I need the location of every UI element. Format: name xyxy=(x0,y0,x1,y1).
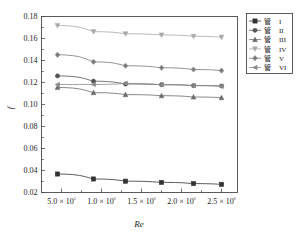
legend-label-roman: V xyxy=(279,55,284,63)
data-point-marker xyxy=(191,181,195,185)
legend-label-cn: 管 xyxy=(264,17,271,26)
data-point-marker xyxy=(159,180,163,184)
data-point-marker xyxy=(123,179,127,183)
legend-label-cn: 管 xyxy=(264,26,271,35)
y-tick-label: 0.06 xyxy=(24,144,38,153)
x-tick-label: 2.5 × 10⁶ xyxy=(207,196,236,206)
figure-container: 0.020.040.060.080.100.120.140.160.18 5.0… xyxy=(0,0,302,235)
data-point-marker xyxy=(91,177,95,181)
legend-label-cn: 管 xyxy=(264,63,271,72)
chart-legend: 管I管II管III管IV管V管VI xyxy=(247,14,293,74)
data-point-marker xyxy=(253,28,257,32)
x-tick-label: 1.0 × 10⁶ xyxy=(87,196,116,206)
data-point-marker xyxy=(253,19,257,23)
legend-label-cn: 管 xyxy=(264,54,271,63)
y-tick-label: 0.08 xyxy=(24,122,38,131)
data-point-marker xyxy=(55,74,59,78)
y-tick-label: 0.10 xyxy=(24,100,38,109)
friction-factor-chart: 0.020.040.060.080.100.120.140.160.18 5.0… xyxy=(0,0,302,235)
x-tick-label: 2.0 × 10⁶ xyxy=(167,196,196,206)
y-tick-label: 0.18 xyxy=(24,12,38,21)
legend-label-roman: VI xyxy=(279,64,287,72)
legend-label-roman: III xyxy=(279,36,287,44)
legend-label-roman: IV xyxy=(279,46,286,54)
y-tick-label: 0.16 xyxy=(24,34,38,43)
data-point-marker xyxy=(219,182,223,186)
data-point-marker xyxy=(55,172,59,176)
x-axis-title: Re xyxy=(133,219,144,229)
x-tick-label: 1.5 × 10⁶ xyxy=(127,196,156,206)
y-tick-label: 0.02 xyxy=(24,188,38,197)
x-tick-label: 5.0 × 10⁵ xyxy=(47,196,76,206)
y-tick-label: 0.04 xyxy=(24,166,38,175)
legend-label-cn: 管 xyxy=(264,35,271,44)
legend-label-cn: 管 xyxy=(264,45,271,54)
y-tick-label: 0.14 xyxy=(24,56,38,65)
y-axis-tick-labels: 0.020.040.060.080.100.120.140.160.18 xyxy=(24,12,38,197)
legend-label-roman: II xyxy=(279,27,284,35)
y-tick-label: 0.12 xyxy=(24,78,38,87)
